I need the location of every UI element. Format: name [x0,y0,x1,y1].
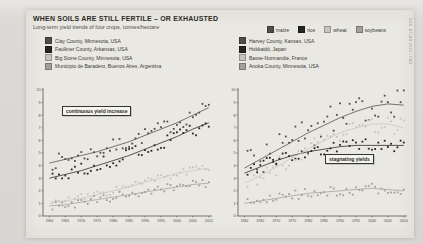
right-chart-annotation: stagnating yields [325,154,374,164]
svg-text:0: 0 [38,214,40,218]
legend-swatch-icon [45,54,52,61]
svg-text:7: 7 [233,126,235,130]
right-chart-legend: Harvey County, Kansas, USAHokkaidō, Japa… [227,37,408,70]
svg-text:10: 10 [36,88,40,92]
svg-text:1960: 1960 [45,219,53,223]
page-subtitle: Long-term yield trends of four crops, to… [33,24,218,30]
svg-text:3: 3 [38,177,40,181]
legend-swatch-icon [239,37,246,44]
legend-label: soybeans [365,27,386,33]
legend-label: Municipio de Baradero, Buenos Aires, Arg… [55,63,161,69]
legend-swatch-icon [239,63,246,70]
legend-item: Big Stone County, Minnesota, USA [45,54,214,61]
svg-text:1985: 1985 [320,219,328,223]
legend-item: Hokkaidō, Japan [239,46,408,53]
crop-legend: maizericewheatsoybeans [267,26,386,33]
header: WHEN SOILS ARE STILL FERTILE – OR EXHAUS… [33,15,408,33]
charts-row: 0123456789101960196519701975198019851990… [33,86,410,234]
svg-text:2000: 2000 [368,219,376,223]
svg-text:1995: 1995 [157,219,165,223]
svg-text:1980: 1980 [109,219,117,223]
svg-text:2: 2 [38,189,40,193]
legend-item: Faulkner County, Arkansas, USA [45,46,214,53]
svg-text:4: 4 [233,164,235,168]
svg-text:6: 6 [38,139,40,143]
legend-item: soybeans [356,26,386,33]
svg-text:1975: 1975 [288,219,296,223]
titles-block: WHEN SOILS ARE STILL FERTILE – OR EXHAUS… [33,15,218,30]
svg-text:2005: 2005 [189,219,197,223]
svg-text:4: 4 [38,164,40,168]
svg-text:1: 1 [233,202,235,206]
legend-label: Clay County, Minnesota, USA [55,38,121,44]
legend-swatch-icon [45,63,52,70]
legend-item: Municipio de Baradero, Buenos Aires, Arg… [45,63,214,70]
svg-text:8: 8 [38,114,40,118]
left-chart: 0123456789101960196519701975198019851990… [33,86,215,234]
left-chart-legend: Clay County, Minnesota, USAFaulkner Coun… [33,37,214,70]
svg-text:5: 5 [233,151,235,155]
legend-swatch-icon [324,26,331,33]
svg-text:2000: 2000 [173,219,181,223]
legend-label: Faulkner County, Arkansas, USA [55,46,128,52]
svg-text:8: 8 [233,114,235,118]
right-chart: 0123456789101960196519701975198019851990… [228,86,410,234]
legend-swatch-icon [45,46,52,53]
svg-text:5: 5 [38,151,40,155]
svg-text:2: 2 [233,189,235,193]
svg-text:2010: 2010 [205,219,213,223]
svg-text:3: 3 [233,177,235,181]
svg-text:9: 9 [38,101,40,105]
legend-label: Basse-Normandie, France [249,55,307,61]
credit-vertical-text: SOIL ATLAS 2015 / FAO [408,18,412,65]
page-title: WHEN SOILS ARE STILL FERTILE – OR EXHAUS… [33,15,218,22]
svg-text:1980: 1980 [304,219,312,223]
svg-text:6: 6 [233,139,235,143]
svg-text:2010: 2010 [400,219,408,223]
legend-label: rice [307,27,315,33]
left-chart-annotation: continuous yield increase [62,106,131,116]
legend-swatch-icon [45,37,52,44]
legend-item: maize [267,26,289,33]
right-chart-plot: 0123456789101960196519701975198019851990… [228,86,410,234]
svg-text:1990: 1990 [336,219,344,223]
location-legends: Clay County, Minnesota, USAFaulkner Coun… [33,37,408,70]
legend-label: Anoka County, Minnesota, USA [249,63,319,69]
legend-swatch-icon [356,26,363,33]
svg-text:1970: 1970 [77,219,85,223]
svg-text:1965: 1965 [61,219,69,223]
svg-text:9: 9 [233,101,235,105]
legend-item: Anoka County, Minnesota, USA [239,63,408,70]
svg-text:1985: 1985 [125,219,133,223]
infographic-panel: WHEN SOILS ARE STILL FERTILE – OR EXHAUS… [26,10,414,238]
legend-label: wheat [333,27,346,33]
legend-item: Clay County, Minnesota, USA [45,37,214,44]
legend-label: Hokkaidō, Japan [249,46,286,52]
svg-text:1965: 1965 [256,219,264,223]
legend-label: maize [276,27,289,33]
svg-text:1970: 1970 [272,219,280,223]
legend-item: rice [298,26,315,33]
svg-text:10: 10 [231,88,235,92]
legend-item: Basse-Normandie, France [239,54,408,61]
svg-text:0: 0 [233,214,235,218]
svg-text:1990: 1990 [141,219,149,223]
legend-swatch-icon [267,26,274,33]
legend-swatch-icon [239,46,246,53]
legend-item: wheat [324,26,346,33]
svg-text:1975: 1975 [93,219,101,223]
legend-swatch-icon [239,54,246,61]
legend-label: Big Stone County, Minnesota, USA [55,55,132,61]
legend-item: Harvey County, Kansas, USA [239,37,408,44]
svg-text:2005: 2005 [384,219,392,223]
legend-swatch-icon [298,26,305,33]
svg-text:1: 1 [38,202,40,206]
svg-text:7: 7 [38,126,40,130]
svg-text:1995: 1995 [352,219,360,223]
svg-text:1960: 1960 [240,219,248,223]
legend-label: Harvey County, Kansas, USA [249,38,314,44]
